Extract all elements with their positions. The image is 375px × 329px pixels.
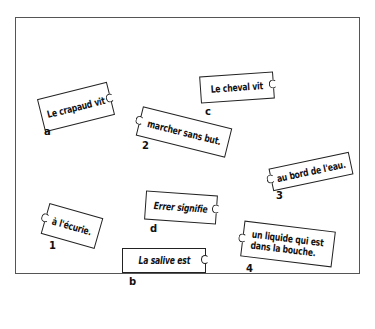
tab-connector-icon [40, 212, 50, 223]
piece-label-c: c [205, 106, 211, 117]
piece-text: Errer signifie [154, 200, 208, 215]
piece-text: Le cheval vit [210, 80, 263, 95]
piece-label-2: 2 [142, 140, 149, 151]
piece-label-3: 3 [276, 190, 283, 201]
puzzle-piece-d[interactable]: Errer signifie [144, 191, 218, 225]
piece-label-b: b [129, 276, 136, 287]
tab-connector-icon [135, 115, 145, 126]
piece-text: La salive est [138, 255, 190, 266]
puzzle-piece-c[interactable]: Le cheval vit [199, 71, 275, 103]
piece-text: Le crapaud vit [46, 94, 106, 119]
piece-label-d: d [150, 223, 157, 234]
piece-label-4: 4 [246, 263, 253, 274]
notch-connector-icon [201, 255, 209, 264]
tab-connector-icon [238, 232, 247, 242]
piece-label-1: 1 [49, 240, 56, 251]
piece-label-a: a [44, 126, 51, 137]
puzzle-piece-b[interactable]: La salive est [122, 248, 206, 273]
piece-text: à l'écurie. [51, 215, 93, 237]
